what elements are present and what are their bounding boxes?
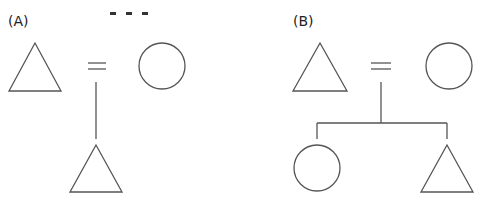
female-child-circle-icon bbox=[294, 145, 340, 191]
kinship-diagram bbox=[0, 0, 482, 206]
marriage-equals-icon bbox=[88, 63, 106, 69]
panel-b bbox=[293, 43, 473, 192]
male-child-triangle-icon bbox=[421, 145, 473, 192]
panel-a bbox=[9, 43, 185, 192]
female-circle-icon bbox=[139, 43, 185, 89]
marriage-equals-icon bbox=[371, 63, 391, 69]
male-triangle-icon bbox=[9, 43, 61, 91]
male-triangle-icon bbox=[293, 43, 347, 91]
male-child-triangle-icon bbox=[70, 145, 122, 192]
female-circle-icon bbox=[426, 43, 472, 89]
sibling-bar bbox=[317, 123, 447, 139]
